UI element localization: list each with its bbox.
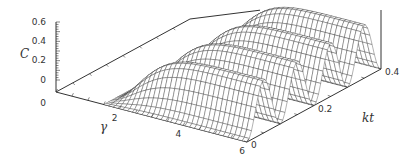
x-tick-label-6: 6 [239,146,245,156]
x-tick-label-0: 0 [40,98,46,108]
z-tick-label-1: 0.2 [32,55,46,65]
y-tick-label-0.2: 0.2 [318,104,332,114]
y-axis-label: kt [362,111,374,125]
x-tick-label-4: 4 [175,129,181,139]
x-tick-label-2: 2 [112,113,118,123]
wireframe-surface [104,7,381,142]
z-axis-label: C [20,47,29,61]
y-tick-label-0: 0 [251,140,257,150]
z-tick-label-2: 0.4 [32,36,47,46]
surface-plot: 00.20.40.6024600.20.4 C γ kt [0,0,406,164]
z-tick-label-0: 0 [40,75,46,85]
x-axis-label: γ [100,120,108,134]
z-tick-label-3: 0.6 [32,17,47,27]
y-tick-label-0.4: 0.4 [385,67,400,77]
